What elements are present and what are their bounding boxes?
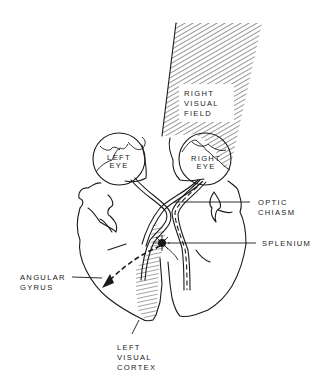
- angular-gyrus-label-line1: ANGULAR: [20, 273, 66, 282]
- angular-gyrus-leader-line: [72, 277, 102, 278]
- left-visual-cortex-label-line3: CORTEX: [117, 363, 156, 372]
- optic-chiasm-label: OPTIC CHIASM: [258, 198, 295, 217]
- left-visual-cortex-leader-line: [132, 320, 139, 334]
- right-eye-label-line2: EYE: [196, 162, 215, 171]
- optic-tract-right-dashed: [172, 180, 206, 290]
- diagram-canvas: LEFT EYE RIGHT EYE RIGHT: [0, 0, 335, 392]
- left-visual-cortex-label: LEFT VISUAL CORTEX: [117, 343, 156, 372]
- angular-gyrus-label: ANGULAR GYRUS: [20, 273, 66, 292]
- visual-field-label-line1: RIGHT: [184, 89, 214, 98]
- left-visual-cortex-label-line2: VISUAL: [117, 353, 152, 362]
- left-eye: LEFT EYE: [93, 133, 145, 185]
- visual-pathway-diagram: LEFT EYE RIGHT EYE RIGHT: [0, 0, 335, 392]
- optic-chiasm-label-line2: CHIASM: [258, 208, 295, 217]
- visual-field-label-line2: VISUAL: [184, 99, 219, 108]
- angular-gyrus-label-line2: GYRUS: [20, 283, 54, 292]
- splenium-label: SPLENIUM: [262, 239, 311, 248]
- splenium-label-line1: SPLENIUM: [262, 239, 311, 248]
- optic-chiasm-label-line1: OPTIC: [258, 198, 288, 207]
- left-visual-cortex-label-line1: LEFT: [117, 343, 141, 352]
- visual-field-label-line3: FIELD: [184, 109, 212, 118]
- left-eye-label-line2: EYE: [109, 161, 128, 170]
